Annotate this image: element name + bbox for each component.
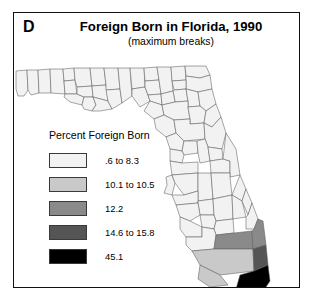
- legend-item: 14.6 to 15.8: [49, 221, 184, 243]
- county-hamilton: [144, 67, 159, 81]
- legend-swatch: [49, 177, 87, 192]
- panhandle-counties: [16, 68, 150, 111]
- county-seminole: [208, 147, 223, 161]
- county-sumter: [182, 141, 198, 155]
- county-washington: [64, 80, 77, 94]
- county-baker: [171, 66, 186, 81]
- county-holmes: [63, 68, 75, 81]
- county-hardee: [198, 199, 214, 215]
- legend-title: Percent Foreign Born: [49, 129, 184, 141]
- legend-label: 45.1: [105, 251, 123, 262]
- figure-panel: D Foreign Born in Florida, 1990 (maximum…: [13, 12, 300, 288]
- county-putnam: [188, 106, 206, 124]
- legend-item: 12.2: [49, 197, 184, 219]
- legend-label: 10.1 to 10.5: [105, 179, 155, 190]
- county-madison: [130, 68, 145, 89]
- map-legend: Percent Foreign Born .6 to 8.3 10.1 to 1…: [49, 129, 184, 269]
- county-santarosa: [27, 70, 39, 95]
- map-subtitle: (maximum breaks): [52, 35, 290, 48]
- legend-item: .6 to 8.3: [49, 149, 184, 171]
- legend-item: 10.1 to 10.5: [49, 173, 184, 195]
- county-gadsden: [90, 68, 106, 86]
- county-bradford: [173, 89, 188, 102]
- legend-swatch: [49, 153, 87, 168]
- legend-swatch: [49, 225, 87, 240]
- legend-label: .6 to 8.3: [105, 155, 139, 166]
- county-escambia: [16, 70, 28, 96]
- panel-letter: D: [23, 18, 35, 36]
- county-osceola: [211, 173, 232, 199]
- county-walton: [50, 69, 65, 94]
- legend-label: 14.6 to 15.8: [105, 227, 155, 238]
- title-block: Foreign Born in Florida, 1990 (maximum b…: [52, 19, 290, 48]
- county-polk: [198, 173, 213, 201]
- page-title: Foreign Born in Florida, 1990: [52, 19, 290, 34]
- legend-swatch: [49, 249, 87, 264]
- county-union: [172, 80, 186, 90]
- legend-label: 12.2: [105, 203, 123, 214]
- legend-swatch: [49, 201, 87, 216]
- county-highlands: [213, 195, 233, 221]
- legend-item: 45.1: [49, 245, 184, 267]
- county-jackson: [74, 68, 92, 87]
- county-glades: [214, 219, 234, 235]
- county-orange: [210, 159, 230, 173]
- county-okaloosa: [38, 69, 51, 93]
- county-leon: [104, 68, 120, 90]
- county-suwannee: [145, 80, 161, 95]
